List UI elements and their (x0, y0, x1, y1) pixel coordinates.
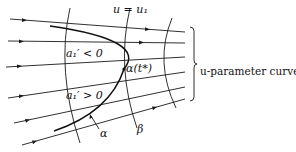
arrow-icon (32, 141, 37, 145)
label-alpha: α (100, 128, 107, 139)
arrow-icon (22, 18, 27, 22)
label-region-lower: a₁′ > 0 (66, 90, 103, 101)
arrow-icon (19, 39, 24, 43)
arrow-icon (25, 119, 30, 123)
alpha-pointer (91, 116, 99, 129)
label-alpha-t-star: α(t*) (126, 63, 152, 74)
arrow-icon (145, 27, 150, 31)
arrow-icon (152, 107, 157, 111)
label-u-equals-u1: u = u₁ (113, 4, 148, 15)
label-u-parameter-curves: u-parameter curves (200, 66, 296, 77)
u-parameter-curves (6, 19, 185, 145)
arrow-icon (17, 64, 22, 68)
right-brace-icon (190, 27, 197, 101)
u-curve-1 (10, 19, 185, 32)
label-beta: β (137, 124, 143, 135)
u-curve-2 (8, 41, 185, 43)
u-parameter-curves-diagram: u = u₁ a₁′ < 0 a₁′ > 0 α(t*) α β u-param… (0, 0, 296, 152)
arrow-icon (139, 41, 144, 45)
label-region-upper: a₁′ < 0 (66, 48, 103, 59)
arrow-icon (19, 95, 24, 99)
